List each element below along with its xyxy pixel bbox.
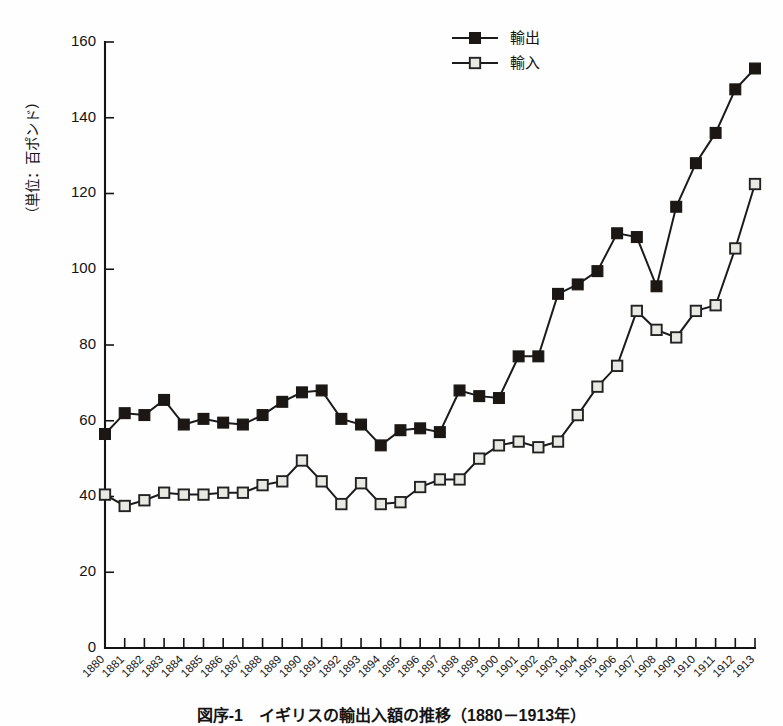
import-data-point — [573, 410, 583, 420]
export-data-point — [533, 351, 544, 362]
chart-figure: 020406080100120140160 188018811882188318… — [0, 0, 783, 726]
legend-label: 輸入 — [510, 54, 540, 71]
export-data-point — [671, 201, 682, 212]
y-tick-label: 40 — [79, 486, 96, 503]
export-data-point — [218, 417, 229, 428]
import-data-point — [218, 488, 228, 498]
export-data-point — [474, 391, 485, 402]
x-tick-label: 1889 — [257, 653, 284, 680]
export-data-point — [434, 427, 445, 438]
export-data-point — [277, 396, 288, 407]
import-data-point — [316, 476, 326, 486]
x-tick-label: 1909 — [651, 653, 678, 680]
legend-label: 輸出 — [510, 29, 540, 46]
export-data-point — [730, 84, 741, 95]
import-data-point — [395, 497, 405, 507]
y-tick-label: 120 — [71, 183, 96, 200]
import-data-point — [198, 489, 208, 499]
y-axis-title: （単位：百ポンド） — [25, 95, 41, 221]
filled-square-marker — [470, 33, 481, 44]
import-data-point — [651, 325, 661, 335]
import-data-point — [671, 332, 681, 342]
import-data-point — [179, 489, 189, 499]
y-tick-label: 80 — [79, 335, 96, 352]
import-data-point — [297, 455, 307, 465]
x-tick-label: 1901 — [493, 653, 520, 680]
import-data-point — [257, 480, 267, 490]
x-tick-label: 1898 — [434, 653, 461, 680]
import-data-point — [710, 300, 720, 310]
x-tick-label: 1907 — [612, 653, 639, 680]
export-data-point — [336, 413, 347, 424]
series-line-import — [105, 184, 755, 506]
export-data-point — [750, 63, 761, 74]
x-tick-label: 1900 — [474, 653, 501, 680]
export-data-point — [395, 425, 406, 436]
x-tick-label: 1881 — [100, 653, 127, 680]
export-data-point — [612, 228, 623, 239]
x-tick-label: 1892 — [316, 653, 343, 680]
export-data-point — [631, 232, 642, 243]
export-data-point — [513, 351, 524, 362]
export-data-point — [494, 393, 505, 404]
x-tick-label: 1887 — [218, 653, 245, 680]
export-data-point — [198, 413, 209, 424]
chart-series — [100, 63, 761, 511]
export-data-point — [100, 429, 111, 440]
import-data-point — [474, 453, 484, 463]
figure-caption: 図序-1 イギリスの輸出入額の推移（1880－1913年） — [0, 706, 783, 726]
import-data-point — [238, 488, 248, 498]
x-tick-label: 1897 — [415, 653, 442, 680]
y-tick-label: 100 — [71, 259, 96, 276]
import-data-point — [356, 478, 366, 488]
export-data-point — [691, 158, 702, 169]
import-data-point — [120, 501, 130, 511]
chart-axes — [105, 42, 755, 648]
x-tick-label: 1905 — [572, 653, 599, 680]
export-data-point — [178, 419, 189, 430]
export-data-point — [297, 387, 308, 398]
x-tick-label: 1883 — [139, 653, 166, 680]
x-tick-label: 1903 — [533, 653, 560, 680]
y-tick-label: 140 — [71, 108, 96, 125]
open-square-marker — [470, 58, 480, 68]
export-data-point — [119, 408, 130, 419]
line-chart-canvas: 020406080100120140160 188018811882188318… — [0, 0, 783, 726]
x-tick-label: 1885 — [178, 653, 205, 680]
x-tick-label: 1888 — [237, 653, 264, 680]
x-tick-label: 1895 — [375, 653, 402, 680]
import-data-point — [553, 436, 563, 446]
x-tick-label: 1890 — [277, 653, 304, 680]
export-data-point — [356, 419, 367, 430]
import-data-point — [454, 474, 464, 484]
x-tick-label: 1906 — [592, 653, 619, 680]
export-data-point — [316, 385, 327, 396]
series-line-export — [105, 69, 755, 446]
export-data-point — [651, 281, 662, 292]
import-data-point — [730, 243, 740, 253]
import-data-point — [336, 499, 346, 509]
import-data-point — [632, 306, 642, 316]
y-axis-title-label: （単位：百ポンド） — [25, 95, 41, 221]
chart-legend: 輸出輸入 — [452, 29, 540, 71]
export-data-point — [415, 423, 426, 434]
import-data-point — [435, 474, 445, 484]
import-data-point — [750, 179, 760, 189]
import-data-point — [277, 476, 287, 486]
export-data-point — [159, 395, 170, 406]
import-data-point — [139, 495, 149, 505]
import-data-point — [592, 381, 602, 391]
export-data-point — [592, 266, 603, 277]
import-data-point — [376, 499, 386, 509]
import-data-point — [159, 488, 169, 498]
import-data-point — [494, 440, 504, 450]
y-tick-label: 0 — [88, 638, 96, 655]
export-data-point — [375, 440, 386, 451]
x-axis-ticks: 1880188118821883188418851886188718881889… — [80, 638, 757, 680]
export-data-point — [454, 385, 465, 396]
x-tick-label: 1880 — [80, 653, 107, 680]
y-tick-label: 20 — [79, 562, 96, 579]
x-tick-label: 1882 — [119, 653, 146, 680]
import-data-point — [533, 442, 543, 452]
import-data-point — [513, 436, 523, 446]
